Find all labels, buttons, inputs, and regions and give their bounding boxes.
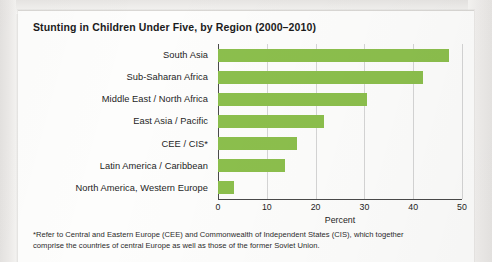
- bar-row: [218, 110, 462, 132]
- category-label-north-america-western-europe: North America, Western Europe: [75, 183, 213, 193]
- bar-row: [218, 88, 462, 110]
- bar-row: [218, 177, 462, 199]
- bar-series: [218, 44, 462, 199]
- xtick-label-20: 20: [311, 202, 321, 212]
- category-label-sub-saharan-africa: Sub-Saharan Africa: [126, 72, 213, 82]
- category-row: East Asia / Pacific: [40, 110, 213, 132]
- xtick-label-50: 50: [457, 202, 467, 212]
- bar-middle-east-north-africa: [218, 93, 367, 106]
- category-label-latin-america-caribbean: Latin America / Caribbean: [100, 161, 213, 171]
- category-label-cee-cis: CEE / CIS*: [162, 139, 213, 149]
- bar-row: [218, 133, 462, 155]
- chart-title: Stunting in Children Under Five, by Regi…: [33, 21, 316, 33]
- category-axis-labels: South Asia Sub-Saharan Africa Middle Eas…: [40, 44, 213, 199]
- category-row: Middle East / North Africa: [40, 88, 213, 110]
- figure-card-top-rule: [18, 10, 474, 11]
- bar-row: [218, 44, 462, 66]
- category-row: North America, Western Europe: [40, 177, 213, 199]
- category-row: Latin America / Caribbean: [40, 155, 213, 177]
- xtick-label-30: 30: [359, 202, 369, 212]
- footnote-line-1: *Refer to Central and Eastern Europe (CE…: [33, 230, 463, 241]
- footnote-line-2: comprise the countries of central Europe…: [33, 241, 463, 252]
- bar-row: [218, 155, 462, 177]
- bar-latin-america-caribbean: [218, 159, 285, 172]
- category-label-middle-east-north-africa: Middle East / North Africa: [102, 94, 213, 104]
- chart-plot-area: South Asia Sub-Saharan Africa Middle Eas…: [0, 44, 492, 214]
- category-row: CEE / CIS*: [40, 133, 213, 155]
- bar-east-asia-pacific: [218, 115, 324, 128]
- xtick-label-0: 0: [216, 202, 221, 212]
- category-row: Sub-Saharan Africa: [40, 66, 213, 88]
- bar-sub-saharan-africa: [218, 71, 423, 84]
- percent-axis-tick-labels: 01020304050: [218, 202, 462, 214]
- xtick-label-10: 10: [262, 202, 272, 212]
- category-row: South Asia: [40, 44, 213, 66]
- bar-south-asia: [218, 49, 449, 62]
- bar-plot-canvas: [218, 44, 462, 199]
- gridline-50: [462, 44, 463, 199]
- x-axis-title: Percent: [218, 215, 462, 225]
- category-label-east-asia-pacific: East Asia / Pacific: [133, 116, 213, 126]
- bar-north-america-western-europe: [218, 181, 234, 194]
- chart-footnote: *Refer to Central and Eastern Europe (CE…: [33, 230, 463, 251]
- percent-axis-line: [218, 199, 462, 200]
- bar-row: [218, 66, 462, 88]
- bar-cee-cis: [218, 137, 297, 150]
- scanned-page: Stunting in Children Under Five, by Regi…: [0, 0, 492, 262]
- xtick-label-40: 40: [408, 202, 418, 212]
- category-label-south-asia: South Asia: [163, 50, 213, 60]
